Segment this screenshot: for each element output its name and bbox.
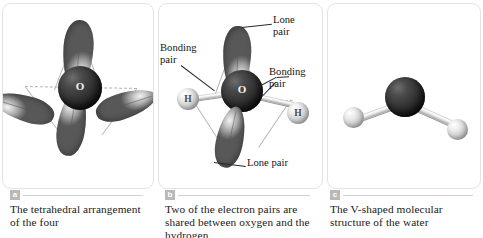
caption-rule [165, 195, 310, 196]
lone-pair-top-label: Lone pair [273, 14, 295, 37]
hydrogen-atom-left [343, 107, 364, 128]
caption-rule [10, 195, 143, 196]
panel-b-diagram: O H H Lone pair Bonding pair Bonding [159, 4, 322, 188]
panel-a-diagram: O [3, 4, 153, 188]
panel-row: O O [0, 0, 483, 192]
hydrogen-right-label: H [287, 108, 309, 118]
caption-row: a The tetrahedral arrangement of the fou… [0, 190, 483, 238]
caption-b: b Two of the electron pairs are shared b… [157, 190, 322, 238]
caption-c: c The V-shaped molecular structure of th… [322, 190, 483, 238]
hydrogen-left-label: H [177, 94, 199, 104]
caption-rule [330, 195, 473, 196]
oxygen-label: O [58, 80, 102, 92]
lone-pair-top-leader [242, 24, 272, 28]
panel-a: O [2, 3, 154, 189]
panel-c-diagram [328, 4, 480, 188]
caption-a: a The tetrahedral arrangement of the fou… [0, 190, 157, 238]
orbital-lobe-bottom [211, 104, 250, 170]
caption-badge-c: c [330, 190, 340, 200]
caption-b-text: Two of the electron pairs are shared bet… [165, 203, 318, 238]
lone-pair-bottom-label: Lone pair [247, 157, 288, 169]
caption-badge-b: b [165, 190, 175, 200]
caption-badge-a: a [10, 190, 20, 200]
bonding-pair-right-label: Bonding pair [269, 66, 306, 89]
oxygen-atom [385, 77, 425, 117]
bonding-pair-left-label: Bonding pair [160, 42, 197, 65]
caption-a-text: The tetrahedral arrangement of the four [10, 203, 153, 229]
panel-c [327, 3, 481, 189]
caption-c-text: The V-shaped molecular structure of the … [330, 203, 479, 229]
hydrogen-atom-right [447, 119, 468, 140]
water-molecule-figure: O O [0, 0, 483, 238]
oxygen-label: O [221, 83, 263, 95]
panel-b: O H H Lone pair Bonding pair Bonding [158, 3, 323, 189]
